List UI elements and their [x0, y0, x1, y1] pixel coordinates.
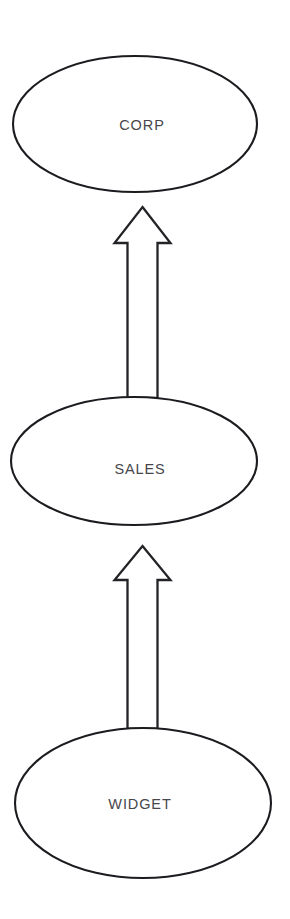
- node-widget[interactable]: WIDGET: [15, 728, 271, 878]
- block-arrow-up-shape: [115, 207, 171, 398]
- node-sales[interactable]: SALES: [11, 397, 257, 525]
- edge-sales-to-corp[interactable]: [115, 207, 171, 398]
- node-widget-ellipse: [15, 728, 271, 878]
- hierarchy-diagram: CORP SALES WIDGET: [0, 0, 290, 919]
- node-corp-ellipse: [13, 56, 257, 192]
- block-arrow-up-shape: [115, 546, 171, 729]
- edge-widget-to-sales[interactable]: [115, 546, 171, 729]
- node-sales-ellipse: [11, 397, 257, 525]
- node-corp[interactable]: CORP: [13, 56, 257, 192]
- diagram-canvas: CORP SALES WIDGET: [0, 0, 290, 919]
